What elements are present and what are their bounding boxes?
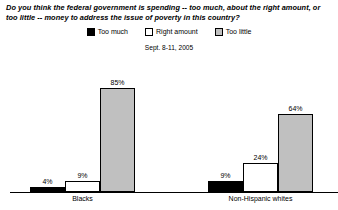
bar-value-nonhispanic-whites-too-little: 64% (278, 105, 313, 113)
bar-blacks-too-much (30, 187, 65, 192)
bar-value-blacks-too-little: 85% (100, 79, 135, 87)
bar-value-blacks-too-much: 4% (30, 178, 65, 186)
bar-blacks-right-amount (65, 181, 100, 192)
bar-blacks-too-little (100, 88, 135, 192)
x-axis-label-blacks: Blacks (30, 194, 135, 203)
x-axis-label-nonhispanic-whites: Non-Hispanic whites (208, 194, 313, 203)
bar-value-nonhispanic-whites-right-amount: 24% (243, 154, 278, 162)
bar-value-nonhispanic-whites-too-much: 9% (208, 172, 243, 180)
bar-nonhispanic-whites-too-little (278, 114, 313, 192)
plot-area: 4% 9% 85% Blacks 9% 24% 64% Non-Hispanic… (0, 0, 338, 210)
bar-nonhispanic-whites-too-much (208, 181, 243, 192)
bar-nonhispanic-whites-right-amount (243, 163, 278, 192)
bar-value-blacks-right-amount: 9% (65, 172, 100, 180)
